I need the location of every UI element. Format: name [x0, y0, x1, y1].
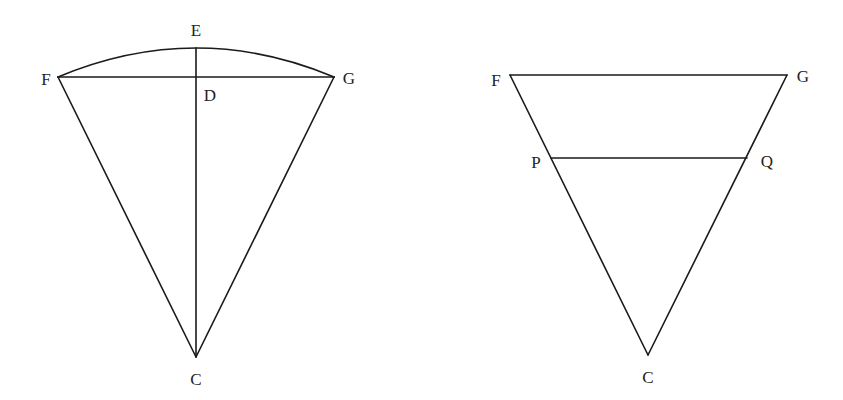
- side-FC: [510, 75, 648, 355]
- label-C: C: [642, 368, 653, 387]
- label-C: C: [190, 370, 201, 389]
- label-G: G: [797, 67, 809, 86]
- label-F: F: [41, 70, 50, 89]
- label-F: F: [491, 71, 500, 90]
- label-P: P: [531, 153, 540, 172]
- triangle-figure: F G P Q C: [491, 67, 809, 387]
- label-D: D: [204, 86, 216, 105]
- sector-figure: E F G D C: [41, 21, 355, 389]
- geometry-diagram: E F G D C F G P Q C: [0, 0, 843, 400]
- side-GC: [648, 75, 787, 355]
- radius-CF: [58, 77, 196, 357]
- label-E: E: [191, 21, 201, 40]
- label-Q: Q: [761, 152, 773, 171]
- radius-CG: [196, 77, 334, 357]
- label-G: G: [343, 69, 355, 88]
